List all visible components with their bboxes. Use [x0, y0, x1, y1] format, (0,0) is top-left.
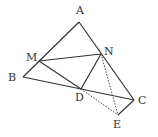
label-C: C [138, 94, 146, 107]
segment-CE [118, 100, 134, 115]
segment-ND [81, 54, 101, 89]
segment-MN [39, 54, 101, 61]
label-N: N [104, 45, 114, 58]
geometry-diagram: A B C D E M N [0, 0, 158, 137]
label-M: M [26, 51, 37, 64]
label-D: D [75, 91, 84, 104]
segment-NE-dotted [101, 54, 118, 115]
segment-AC [79, 22, 134, 100]
label-E: E [113, 118, 121, 131]
label-A: A [75, 4, 85, 17]
label-B: B [8, 71, 16, 84]
